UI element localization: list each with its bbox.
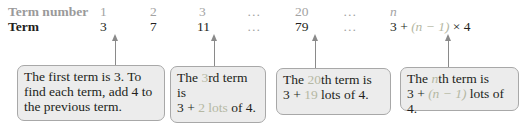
term-cell: 11 [197,20,210,34]
callout-highlight: 2 lots [198,100,228,115]
term-number-cell: … [247,5,261,19]
callout-line2-pre: 3 + [283,87,304,102]
callout-nth-term: The nth term is 3 + (n − 1) lots of 4. [400,67,519,111]
term-number-cell: … [343,5,357,19]
term-number-cell: 2 [150,5,157,19]
callout-twentieth-term: The 20th term is 3 + 19 lots of 4. [276,68,391,115]
term-cell: 79 [295,20,309,34]
callout-line1-pre: The [283,72,307,87]
callout-highlight: 20 [307,72,321,87]
formula-prefix: 3 + [390,19,411,34]
arrow-up-icon [115,40,116,65]
arrow-up-icon [315,40,316,68]
term-cell: … [247,20,261,34]
callout-highlight: 19 [304,87,318,102]
formula-suffix: × 4 [449,19,470,34]
callout-first-term: The first term is 3. To find each term, … [17,65,165,121]
callout-line2-pre: 3 + [407,86,428,101]
arrow-up-icon [214,40,215,66]
callout-line1-post: th term is [321,72,372,87]
formula-paren: (n − 1) [411,19,449,34]
term-number-cell: n [390,5,397,19]
callout-text: The first term is 3. To find each term, … [24,69,152,114]
term-cell: 3 [100,20,107,34]
term-cell: … [343,20,357,34]
term-number-cell: 20 [295,5,309,19]
term-number-label: Term number [8,5,88,19]
callout-line1-post: th term is [438,71,489,86]
callout-line2-post: of 4. [228,100,256,115]
callout-third-term: The 3rd term is 3 + 2 lots of 4. [170,66,266,123]
general-term-formula: 3 + (n − 1) × 4 [390,20,471,34]
term-label: Term [8,20,39,34]
callout-line1-pre: The [177,70,201,85]
term-cell: 7 [150,20,157,34]
term-number-cell: 3 [199,5,206,19]
callout-highlight: (n − 1) [428,86,466,101]
callout-line2-post: lots of 4. [318,87,369,102]
arrow-up-icon [448,40,449,67]
callout-line1-pre: The [407,71,431,86]
term-number-cell: 1 [100,5,107,19]
callout-line2-pre: 3 + [177,100,198,115]
